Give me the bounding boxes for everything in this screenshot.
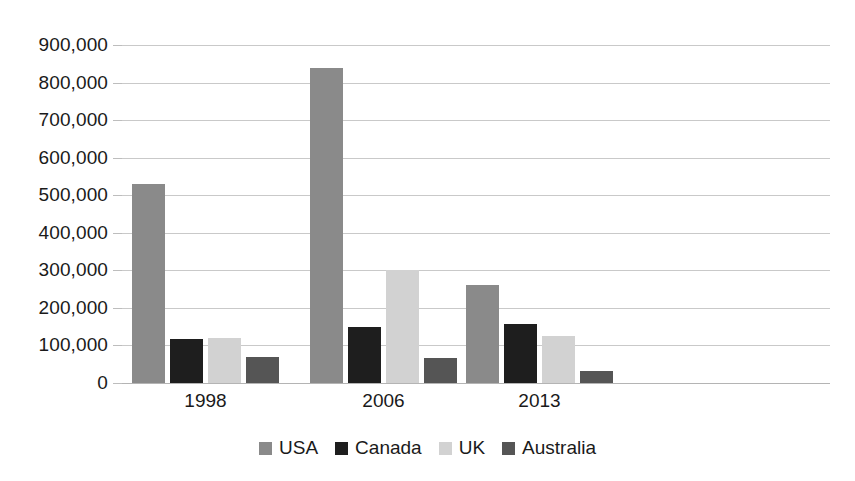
y-tick-mark <box>113 270 122 271</box>
legend-label: Canada <box>355 437 422 459</box>
y-tick-mark <box>113 158 122 159</box>
legend-label: USA <box>279 437 318 459</box>
y-tick-label: 100,000 <box>39 334 108 356</box>
bar-canada-2006[interactable] <box>348 327 381 383</box>
bar-chart: 900,000800,000700,000600,000500,000400,0… <box>0 0 855 481</box>
legend-swatch-icon <box>502 442 515 455</box>
x-tick-label: 1998 <box>184 390 226 412</box>
y-tick-mark <box>113 83 122 84</box>
legend-swatch-icon <box>259 442 272 455</box>
bar-uk-2006[interactable] <box>386 270 419 383</box>
x-axis: 199820062013 <box>122 390 830 420</box>
gridline <box>122 383 830 384</box>
y-tick-label: 700,000 <box>39 109 108 131</box>
bar-canada-1998[interactable] <box>170 339 203 383</box>
legend-swatch-icon <box>439 442 452 455</box>
bar-group-1998 <box>132 45 279 383</box>
bar-group-2006 <box>310 45 457 383</box>
y-tick-label: 900,000 <box>39 34 108 56</box>
bar-uk-2013[interactable] <box>542 336 575 383</box>
y-tick-mark <box>113 383 122 384</box>
bar-usa-1998[interactable] <box>132 184 165 383</box>
y-tick-label: 400,000 <box>39 222 108 244</box>
y-axis: 900,000800,000700,000600,000500,000400,0… <box>0 0 122 481</box>
legend-item-canada[interactable]: Canada <box>335 437 422 459</box>
y-tick-label: 200,000 <box>39 297 108 319</box>
y-tick-label: 500,000 <box>39 184 108 206</box>
y-tick-mark <box>113 233 122 234</box>
bar-australia-1998[interactable] <box>246 357 279 383</box>
legend-label: UK <box>459 437 485 459</box>
bar-groups <box>122 45 830 383</box>
bar-usa-2013[interactable] <box>466 285 499 383</box>
legend: USACanadaUKAustralia <box>0 437 855 459</box>
y-tick-label: 0 <box>97 372 108 394</box>
legend-label: Australia <box>522 437 596 459</box>
plot-area <box>122 45 830 383</box>
y-tick-label: 600,000 <box>39 147 108 169</box>
y-tick-mark <box>113 45 122 46</box>
bar-canada-2013[interactable] <box>504 324 537 383</box>
legend-item-usa[interactable]: USA <box>259 437 318 459</box>
legend-swatch-icon <box>335 442 348 455</box>
bar-australia-2013[interactable] <box>580 371 613 383</box>
bar-usa-2006[interactable] <box>310 68 343 383</box>
y-tick-label: 800,000 <box>39 72 108 94</box>
y-tick-mark <box>113 308 122 309</box>
x-tick-label: 2006 <box>362 390 404 412</box>
x-tick-label: 2013 <box>518 390 560 412</box>
legend-item-australia[interactable]: Australia <box>502 437 596 459</box>
bar-uk-1998[interactable] <box>208 338 241 383</box>
y-tick-mark <box>113 120 122 121</box>
bar-australia-2006[interactable] <box>424 358 457 383</box>
y-tick-label: 300,000 <box>39 259 108 281</box>
bar-group-2013 <box>466 45 613 383</box>
y-tick-mark <box>113 345 122 346</box>
y-tick-mark <box>113 195 122 196</box>
legend-item-uk[interactable]: UK <box>439 437 485 459</box>
